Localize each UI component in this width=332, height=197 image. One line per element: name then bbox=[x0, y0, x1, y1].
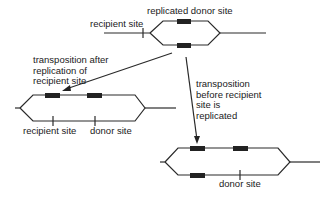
transposon-element bbox=[233, 146, 248, 151]
left-pathway-caption: transposition after replication of recip… bbox=[33, 55, 109, 87]
transposition-diagram bbox=[0, 0, 332, 197]
arrowhead-icon bbox=[194, 136, 200, 144]
left-recipient-site-label: recipient site bbox=[23, 126, 76, 137]
transposon-element bbox=[177, 43, 191, 48]
transposon-element bbox=[45, 93, 60, 98]
right-donor-site-label: donor site bbox=[219, 179, 261, 190]
transposon-element bbox=[87, 93, 102, 98]
right-replicated-molecule bbox=[160, 148, 320, 180]
left-donor-site-label: donor site bbox=[90, 126, 132, 137]
top-recipient-site-label: recipient site bbox=[90, 19, 143, 30]
left-replicated-molecule bbox=[15, 95, 176, 126]
replicated-donor-site-label: replicated donor site bbox=[147, 6, 233, 17]
transposon-element bbox=[177, 19, 191, 24]
transposon-element bbox=[190, 146, 205, 151]
right-pathway-caption: transposition before recipient site is r… bbox=[196, 79, 261, 121]
transposon-element bbox=[190, 173, 205, 178]
